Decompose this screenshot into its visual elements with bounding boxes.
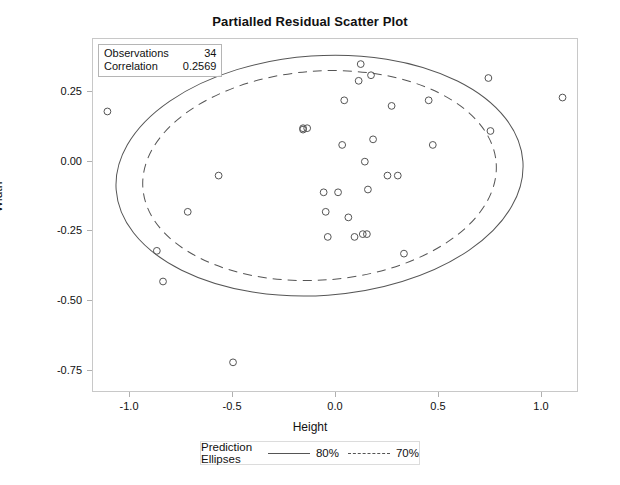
data-point (361, 158, 368, 165)
statistics-label: Observations (104, 47, 183, 60)
data-point (429, 142, 436, 149)
data-point (487, 128, 494, 135)
x-axis-label: Height (0, 420, 620, 434)
statistics-label: Correlation (104, 60, 183, 73)
data-point (365, 186, 372, 193)
legend-entry-70: 70% (348, 447, 419, 459)
legend-entry-80: 80% (268, 447, 339, 459)
data-point (559, 94, 566, 101)
data-point (230, 359, 237, 366)
data-point (324, 234, 331, 241)
data-point (394, 172, 401, 179)
data-point (425, 97, 432, 104)
data-point (160, 278, 167, 285)
data-point (368, 72, 375, 79)
data-point (341, 97, 348, 104)
statistics-table: Observations34Correlation0.2569 (104, 47, 216, 73)
page-title: Partialled Residual Scatter Plot (0, 14, 620, 29)
data-point (104, 108, 111, 115)
y-axis-label: Width (0, 182, 5, 213)
legend-label-80: 80% (316, 447, 339, 459)
statistics-inset-box: Observations34Correlation0.2569 (98, 44, 222, 77)
y-tick-label: 0.00 (36, 155, 82, 167)
data-point (485, 75, 492, 82)
data-point (384, 172, 391, 179)
legend-swatch-dashed-line (348, 453, 390, 454)
data-point (388, 103, 395, 110)
statistics-value: 34 (183, 47, 217, 60)
data-point (357, 61, 364, 68)
x-tick-label: -1.0 (104, 400, 154, 412)
data-point (351, 234, 358, 241)
data-point (184, 208, 191, 215)
x-tick-label: 0.0 (310, 400, 360, 412)
legend: Prediction Ellipses 80% 70% (200, 441, 420, 465)
data-point (370, 136, 377, 143)
data-point (304, 125, 311, 132)
statistics-row: Observations34 (104, 47, 216, 60)
data-point (322, 208, 329, 215)
chart-figure: Partialled Residual Scatter Plot Width H… (0, 0, 620, 485)
data-point (320, 189, 327, 196)
y-tick-label: -0.50 (36, 294, 82, 306)
prediction-ellipse-70 (136, 59, 504, 292)
y-tick-label: -0.25 (36, 224, 82, 236)
data-point (215, 172, 222, 179)
data-point (363, 231, 370, 238)
statistics-value: 0.2569 (183, 60, 217, 73)
legend-title: Prediction Ellipses (201, 441, 259, 465)
data-point (401, 250, 408, 257)
prediction-ellipse-80 (108, 42, 531, 310)
legend-label-70: 70% (396, 447, 419, 459)
data-point (355, 77, 362, 84)
data-point (339, 142, 346, 149)
x-tick-label: 0.5 (413, 400, 463, 412)
x-tick-label: -0.5 (207, 400, 257, 412)
legend-swatch-solid-line (268, 453, 310, 454)
statistics-row: Correlation0.2569 (104, 60, 216, 73)
x-tick-label: 1.0 (516, 400, 566, 412)
y-tick-label: -0.75 (36, 364, 82, 376)
scatter-canvas (93, 39, 579, 393)
data-point (345, 214, 352, 221)
data-point (335, 189, 342, 196)
data-point (153, 247, 160, 254)
y-tick-label: 0.25 (36, 85, 82, 97)
plot-area: Observations34Correlation0.2569 (92, 38, 578, 392)
